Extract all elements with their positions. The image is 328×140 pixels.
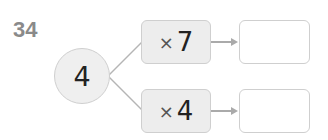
answer-box-1[interactable] (239, 20, 310, 64)
operation-box-2: × 4 (141, 89, 211, 133)
answer-box-2[interactable] (239, 89, 310, 133)
branch-line-bottom (108, 76, 142, 110)
start-value: 4 (73, 61, 90, 92)
operand: 7 (177, 27, 194, 57)
branch-line-top (108, 42, 142, 76)
multiply-icon: × (159, 32, 174, 53)
operand: 4 (177, 96, 194, 126)
arrow-icon (210, 107, 238, 115)
multiply-icon: × (159, 101, 174, 122)
operation-box-1: × 7 (141, 20, 211, 64)
arrow-icon (210, 38, 238, 46)
start-value-circle: 4 (54, 48, 110, 104)
